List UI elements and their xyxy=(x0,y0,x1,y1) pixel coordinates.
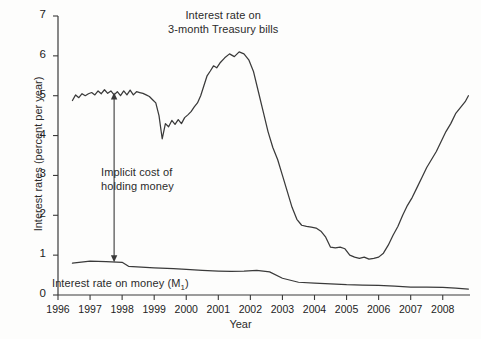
y-axis-tick-label: 0 xyxy=(26,287,46,299)
y-axis-ticks xyxy=(53,16,58,295)
x-axis-tick-label: 1999 xyxy=(137,303,171,315)
x-axis-ticks xyxy=(58,295,443,300)
implicit-cost-label: Implicit cost of holding money xyxy=(101,165,174,193)
series-label-money-m1: Interest rate on money (M1) xyxy=(52,276,189,295)
x-axis-tick-label: 2007 xyxy=(394,303,428,315)
y-axis-title: Interest rates (percent per year) xyxy=(32,54,44,254)
y-axis-tick-label: 5 xyxy=(26,88,46,100)
x-axis-tick-label: 2000 xyxy=(169,303,203,315)
series-label-treasury-bills: Interest rate on 3-month Treasury bills xyxy=(168,8,278,36)
y-axis-tick-label: 1 xyxy=(26,247,46,259)
implicit-cost-label-line1: Implicit cost of xyxy=(101,165,174,179)
x-axis-tick-label: 1996 xyxy=(41,303,75,315)
series-line-treasury-bills xyxy=(72,52,468,259)
series-label-treasury-bills-line1: Interest rate on xyxy=(168,8,278,22)
x-axis-tick-label: 2003 xyxy=(265,303,299,315)
y-axis-tick-label: 6 xyxy=(26,48,46,60)
x-axis-tick-label: 2005 xyxy=(330,303,364,315)
axis-lines xyxy=(58,16,470,295)
series-label-money-m1-suffix: ) xyxy=(185,277,189,289)
x-axis-title: Year xyxy=(0,318,481,330)
series-label-money-m1-prefix: Interest rate on money (M xyxy=(52,277,180,289)
x-axis-tick-label: 2006 xyxy=(362,303,396,315)
chart-figure: Interest rates (percent per year) Year I… xyxy=(0,0,481,339)
y-axis-tick-label: 7 xyxy=(26,8,46,20)
implicit-cost-label-line2: holding money xyxy=(101,179,174,193)
y-axis-tick-label: 4 xyxy=(26,128,46,140)
y-axis-tick-label: 2 xyxy=(26,207,46,219)
x-axis-tick-label: 2002 xyxy=(233,303,267,315)
y-axis-tick-label: 3 xyxy=(26,167,46,179)
x-axis-tick-label: 2001 xyxy=(201,303,235,315)
x-axis-tick-label: 2008 xyxy=(426,303,460,315)
x-axis-tick-label: 1998 xyxy=(105,303,139,315)
x-axis-tick-label: 2004 xyxy=(297,303,331,315)
series-label-treasury-bills-line2: 3-month Treasury bills xyxy=(168,22,278,36)
x-axis-tick-label: 1997 xyxy=(73,303,107,315)
